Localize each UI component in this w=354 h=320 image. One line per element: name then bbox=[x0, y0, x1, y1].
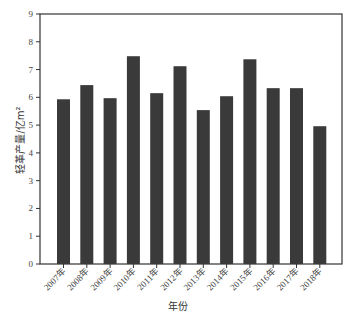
x-axis: 2007年2008年2009年2010年2011年2012年2013年2014年… bbox=[41, 264, 324, 293]
y-tick-label: 9 bbox=[29, 9, 34, 19]
x-tick-label: 2017年 bbox=[274, 266, 301, 293]
y-tick-label: 0 bbox=[29, 259, 34, 269]
bar-2015年 bbox=[243, 59, 256, 264]
bar-2018年 bbox=[313, 126, 326, 264]
x-tick-label: 2012年 bbox=[158, 266, 185, 293]
bar-2013年 bbox=[197, 110, 210, 264]
x-tick-label: 2009年 bbox=[88, 266, 115, 293]
x-tick-label: 2010年 bbox=[111, 266, 138, 293]
y-tick-label: 6 bbox=[29, 92, 34, 102]
y-tick-label: 7 bbox=[29, 65, 34, 75]
x-tick-label: 2008年 bbox=[64, 266, 91, 293]
y-tick-label: 2 bbox=[29, 203, 34, 213]
bar-2009年 bbox=[104, 98, 117, 264]
x-tick-label: 2014年 bbox=[204, 266, 231, 293]
y-tick-label: 5 bbox=[29, 120, 34, 130]
bar-2010年 bbox=[127, 56, 140, 264]
bar-2008年 bbox=[80, 85, 93, 264]
bar-chart: 0123456789 2007年2008年2009年2010年2011年2012… bbox=[0, 0, 354, 320]
x-tick-label: 2013年 bbox=[181, 266, 208, 293]
x-tick-label: 2011年 bbox=[134, 266, 161, 293]
bar-2011年 bbox=[150, 93, 163, 264]
bar-2017年 bbox=[290, 88, 303, 264]
bars-group bbox=[57, 56, 326, 264]
y-tick-label: 8 bbox=[29, 37, 34, 47]
y-tick-label: 4 bbox=[29, 148, 34, 158]
x-tick-label: 2016年 bbox=[251, 266, 278, 293]
y-tick-label: 3 bbox=[29, 176, 34, 186]
bar-2012年 bbox=[174, 66, 187, 264]
x-axis-label: 年份 bbox=[168, 300, 188, 312]
bar-2016年 bbox=[267, 88, 280, 264]
y-tick-label: 1 bbox=[29, 231, 34, 241]
x-tick-label: 2007年 bbox=[41, 266, 68, 293]
x-tick-label: 2018年 bbox=[297, 266, 324, 293]
bar-2014年 bbox=[220, 96, 233, 264]
y-axis-label: 轻革产量/亿m² bbox=[14, 106, 26, 173]
bar-2007年 bbox=[57, 99, 70, 264]
y-axis: 0123456789 bbox=[29, 9, 41, 269]
x-tick-label: 2015年 bbox=[227, 266, 254, 293]
